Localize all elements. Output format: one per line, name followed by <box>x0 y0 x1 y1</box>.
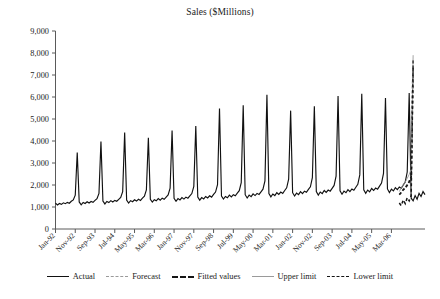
x-axis-tick-label: Sep-98 <box>193 231 215 253</box>
legend-item-fitted-values[interactable]: Fitted values <box>172 272 241 281</box>
legend-label-actual: Actual <box>73 272 95 281</box>
y-axis-tick-label: 5,000 <box>30 115 49 124</box>
solid-line-icon <box>47 273 69 280</box>
data-series-group <box>56 55 426 205</box>
legend-item-upper-limit[interactable]: Upper limit <box>252 272 317 281</box>
x-axis-tick-label: Sep-03 <box>312 231 334 253</box>
y-axis-tick-label: 7,000 <box>30 71 49 80</box>
y-axis: 01,0002,0003,0004,0005,0006,0007,0008,00… <box>30 27 55 234</box>
x-axis: Jan-92Nov-92Sep-93Jul-94May-95Mar-96Jan-… <box>36 229 425 254</box>
x-axis-tick-label: Mar-96 <box>133 231 156 254</box>
chart-legend: Actual Forecast Fitted values Upper limi… <box>0 272 440 281</box>
x-axis-tick-label: May-05 <box>350 231 374 255</box>
dashed-bold-line-icon <box>172 273 194 280</box>
dashed-light-line-icon <box>106 273 128 280</box>
y-axis-tick-label: 6,000 <box>30 93 49 102</box>
x-axis-tick-label: Nov-02 <box>291 231 314 254</box>
y-axis-tick-label: 1,000 <box>30 203 49 212</box>
legend-item-actual[interactable]: Actual <box>47 272 95 281</box>
x-axis-tick-label: Sep-93 <box>75 231 97 253</box>
y-axis-tick-label: 2,000 <box>30 181 49 190</box>
x-axis-tick-label: Nov-92 <box>54 231 77 254</box>
legend-label-lower-limit: Lower limit <box>353 272 393 281</box>
y-axis-tick-label: 8,000 <box>30 49 49 58</box>
x-axis-tick-label: Mar-06 <box>370 231 393 254</box>
y-axis-tick-label: 9,000 <box>30 27 49 36</box>
x-axis-tick-label: Nov-97 <box>172 231 195 254</box>
x-axis-tick-label: Mar-01 <box>252 231 275 254</box>
sales-chart: Sales ($Millions) 01,0002,0003,0004,0005… <box>0 0 440 299</box>
legend-item-forecast[interactable]: Forecast <box>106 272 160 281</box>
x-axis-tick-label: May-95 <box>113 231 137 255</box>
series-line-actual <box>56 93 426 205</box>
dashed-line-icon <box>327 273 349 280</box>
legend-label-upper-limit: Upper limit <box>278 272 317 281</box>
legend-label-fitted-values: Fitted values <box>198 272 241 281</box>
y-axis-tick-label: 4,000 <box>30 137 49 146</box>
thin-gray-line-icon <box>252 273 274 280</box>
chart-plot-area: 01,0002,0003,0004,0005,0006,0007,0008,00… <box>0 0 440 272</box>
legend-label-forecast: Forecast <box>132 272 160 281</box>
legend-item-lower-limit[interactable]: Lower limit <box>327 272 393 281</box>
y-axis-tick-label: 3,000 <box>30 159 49 168</box>
x-axis-tick-label: May-00 <box>231 231 255 255</box>
